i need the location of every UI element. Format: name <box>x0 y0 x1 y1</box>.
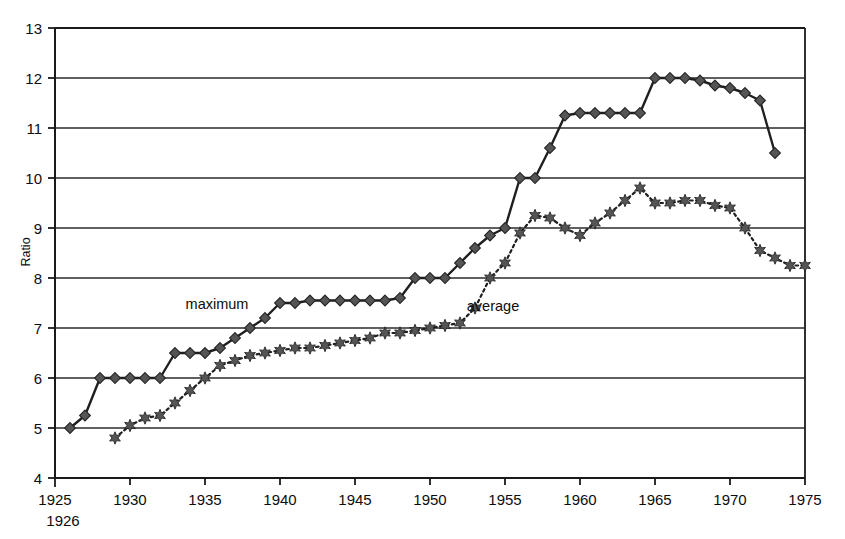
data-point-marker <box>725 83 736 94</box>
data-point-marker <box>365 295 376 306</box>
data-point-marker <box>335 295 346 306</box>
y-tick-label: 10 <box>25 170 42 187</box>
y-axis-title-text: Ratio <box>19 237 33 266</box>
data-point-marker <box>545 143 556 154</box>
data-point-marker <box>710 80 721 91</box>
data-point-marker <box>320 295 331 306</box>
chart-container: 45678910111213 1925193019351940194519501… <box>0 0 845 539</box>
x-tick-label: 1940 <box>263 491 296 508</box>
x-axis-sub-label: 1926 <box>46 512 79 529</box>
y-tick-label: 13 <box>25 20 42 37</box>
data-point-marker <box>650 73 661 84</box>
data-point-marker <box>575 229 586 241</box>
data-point-marker <box>425 273 436 284</box>
y-tick-label: 12 <box>25 70 42 87</box>
y-tick-label: 11 <box>26 120 42 137</box>
data-point-marker <box>215 359 226 371</box>
data-point-marker <box>785 259 796 271</box>
x-tick-label: 1965 <box>638 491 671 508</box>
grid-lines <box>55 28 805 428</box>
data-point-marker <box>530 173 541 184</box>
data-point-marker <box>755 95 766 106</box>
data-point-marker <box>380 295 391 306</box>
data-point-marker <box>170 348 181 359</box>
data-point-marker <box>200 348 211 359</box>
data-point-marker <box>560 110 571 121</box>
x-tick-label: 1925 <box>38 491 71 508</box>
y-tick-label: 6 <box>34 370 42 387</box>
data-point-marker <box>140 412 151 424</box>
y-tick-label: 7 <box>34 320 42 337</box>
data-point-marker <box>140 373 151 384</box>
series-maximum <box>65 73 781 434</box>
data-point-marker <box>770 148 781 159</box>
y-tick-label: 5 <box>34 420 42 437</box>
data-point-marker <box>185 348 196 359</box>
data-point-marker <box>170 397 181 409</box>
series-average <box>110 182 811 444</box>
data-point-marker <box>155 373 166 384</box>
data-point-marker <box>620 108 631 119</box>
data-point-marker <box>350 295 361 306</box>
data-point-marker <box>770 252 781 264</box>
data-point-marker <box>110 373 121 384</box>
data-point-marker <box>575 108 586 119</box>
data-point-marker <box>305 295 316 306</box>
x-tick-label: 1960 <box>563 491 596 508</box>
y-tick-label: 8 <box>34 270 42 287</box>
x-tick-label: 1975 <box>788 491 821 508</box>
line-chart: 45678910111213 1925193019351940194519501… <box>0 0 845 539</box>
data-point-marker <box>500 223 511 234</box>
data-point-marker <box>95 373 106 384</box>
x-tick-label: 1930 <box>113 491 146 508</box>
series-line-average <box>115 188 805 438</box>
data-point-marker <box>230 354 241 366</box>
data-point-marker <box>605 108 616 119</box>
data-point-marker <box>590 108 601 119</box>
x-tick-label: 1955 <box>488 491 521 508</box>
data-point-marker <box>695 75 706 86</box>
data-point-marker <box>665 73 676 84</box>
data-point-marker <box>125 373 136 384</box>
series-annotation-maximum: maximum <box>186 296 249 312</box>
x-tick-label: 1945 <box>338 491 371 508</box>
x-tick-label: 1970 <box>713 491 746 508</box>
data-point-marker <box>680 73 691 84</box>
data-point-marker <box>290 298 301 309</box>
y-tick-label: 9 <box>34 220 42 237</box>
data-point-marker <box>515 173 526 184</box>
x-tick-label: 1950 <box>413 491 446 508</box>
data-point-marker <box>635 108 646 119</box>
series-line-maximum <box>70 78 775 428</box>
y-tick-label: 4 <box>34 470 42 487</box>
data-point-marker <box>740 88 751 99</box>
series-annotation-average: average <box>467 298 519 314</box>
x-tick-label: 1935 <box>188 491 221 508</box>
y-axis-title: Ratio <box>19 237 33 266</box>
